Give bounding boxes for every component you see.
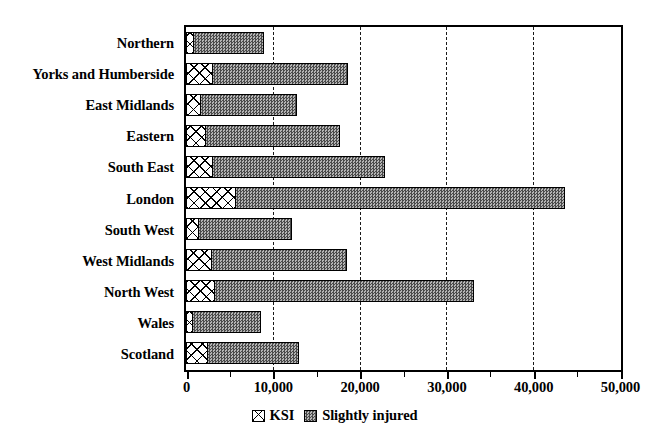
bar-segment-slightly-injured	[194, 32, 264, 54]
y-axis-label-scotland: Scotland	[121, 347, 174, 362]
bar-segment-ksi	[186, 32, 194, 54]
y-axis-label-yorks-and-humberside: Yorks and Humberside	[33, 67, 174, 82]
bar-segment-ksi	[186, 125, 206, 147]
bar-row	[186, 63, 348, 85]
bar-row	[186, 218, 292, 240]
x-tick-minor-45000	[577, 372, 578, 377]
x-axis-tick-labels: 010,00020,00030,00040,00050,000	[184, 379, 623, 401]
bar-segment-ksi	[186, 280, 215, 302]
x-tick-label-40000: 40,000	[514, 379, 553, 396]
bar-segment-ksi	[186, 63, 213, 85]
bar-segment-ksi	[186, 342, 208, 364]
stacked-bar-chart: NorthernYorks and HumbersideEast Midland…	[0, 0, 669, 445]
y-axis-label-west-midlands: West Midlands	[82, 254, 174, 269]
bar-segment-slightly-injured	[212, 249, 347, 271]
bar-segment-ksi	[186, 156, 213, 178]
bar-segment-slightly-injured	[201, 94, 297, 116]
y-axis-label-south-east: South East	[108, 160, 174, 175]
y-axis-label-northern: Northern	[117, 36, 174, 51]
y-axis-label-wales: Wales	[137, 316, 174, 331]
bar-segment-slightly-injured	[199, 218, 292, 240]
legend-item-slightly-injured: Slightly injured	[304, 407, 417, 424]
bar-segment-ksi	[186, 94, 201, 116]
x-tick-major-30000	[447, 372, 449, 379]
bar-segment-slightly-injured	[236, 187, 565, 209]
x-tick-major-20000	[360, 372, 362, 379]
legend-label: KSI	[270, 407, 295, 424]
x-tick-label-10000: 10,000	[254, 379, 293, 396]
legend-label: Slightly injured	[322, 407, 417, 424]
bar-row	[186, 32, 264, 54]
cross-hatch-swatch	[252, 410, 265, 422]
y-axis-label-south-west: South West	[105, 223, 174, 238]
x-tick-minor-5000	[230, 372, 231, 377]
bar-segment-ksi	[186, 187, 236, 209]
bar-row	[186, 249, 347, 271]
bar-segment-slightly-injured	[213, 63, 348, 85]
bar-row	[186, 280, 474, 302]
bar-segment-slightly-injured	[193, 311, 261, 333]
bar-segment-ksi	[186, 218, 199, 240]
x-tick-major-10000	[273, 372, 275, 379]
bar-row	[186, 156, 385, 178]
y-axis-label-east-midlands: East Midlands	[85, 98, 174, 113]
x-tick-major-40000	[534, 372, 536, 379]
legend-item-ksi: KSI	[252, 407, 295, 424]
x-tick-label-0: 0	[183, 379, 190, 396]
bar-segment-ksi	[186, 249, 212, 271]
bar-row	[186, 94, 297, 116]
y-axis-label-eastern: Eastern	[126, 129, 174, 144]
x-tick-label-30000: 30,000	[427, 379, 466, 396]
bar-segment-slightly-injured	[208, 342, 299, 364]
bar-row	[186, 125, 340, 147]
bar-segment-slightly-injured	[213, 156, 385, 178]
y-axis-label-north-west: North West	[104, 285, 174, 300]
x-tick-label-20000: 20,000	[340, 379, 379, 396]
x-tick-major-0	[187, 372, 189, 379]
x-tick-label-50000: 50,000	[601, 379, 640, 396]
bar-row	[186, 311, 261, 333]
grey-dotted-swatch	[304, 410, 317, 422]
plot-area	[184, 25, 623, 372]
plot-inner	[186, 27, 621, 370]
y-axis-category-labels: NorthernYorks and HumbersideEast Midland…	[0, 25, 180, 372]
bar-row	[186, 342, 299, 364]
y-axis-label-london: London	[126, 192, 174, 207]
bar-segment-slightly-injured	[206, 125, 340, 147]
chart-legend: KSISlightly injured	[0, 407, 669, 424]
x-tick-major-50000	[621, 372, 623, 379]
bar-segment-slightly-injured	[215, 280, 474, 302]
x-tick-minor-25000	[404, 372, 405, 377]
x-tick-minor-15000	[317, 372, 318, 377]
bar-row	[186, 187, 565, 209]
bar-segment-ksi	[186, 311, 193, 333]
x-tick-minor-35000	[490, 372, 491, 377]
